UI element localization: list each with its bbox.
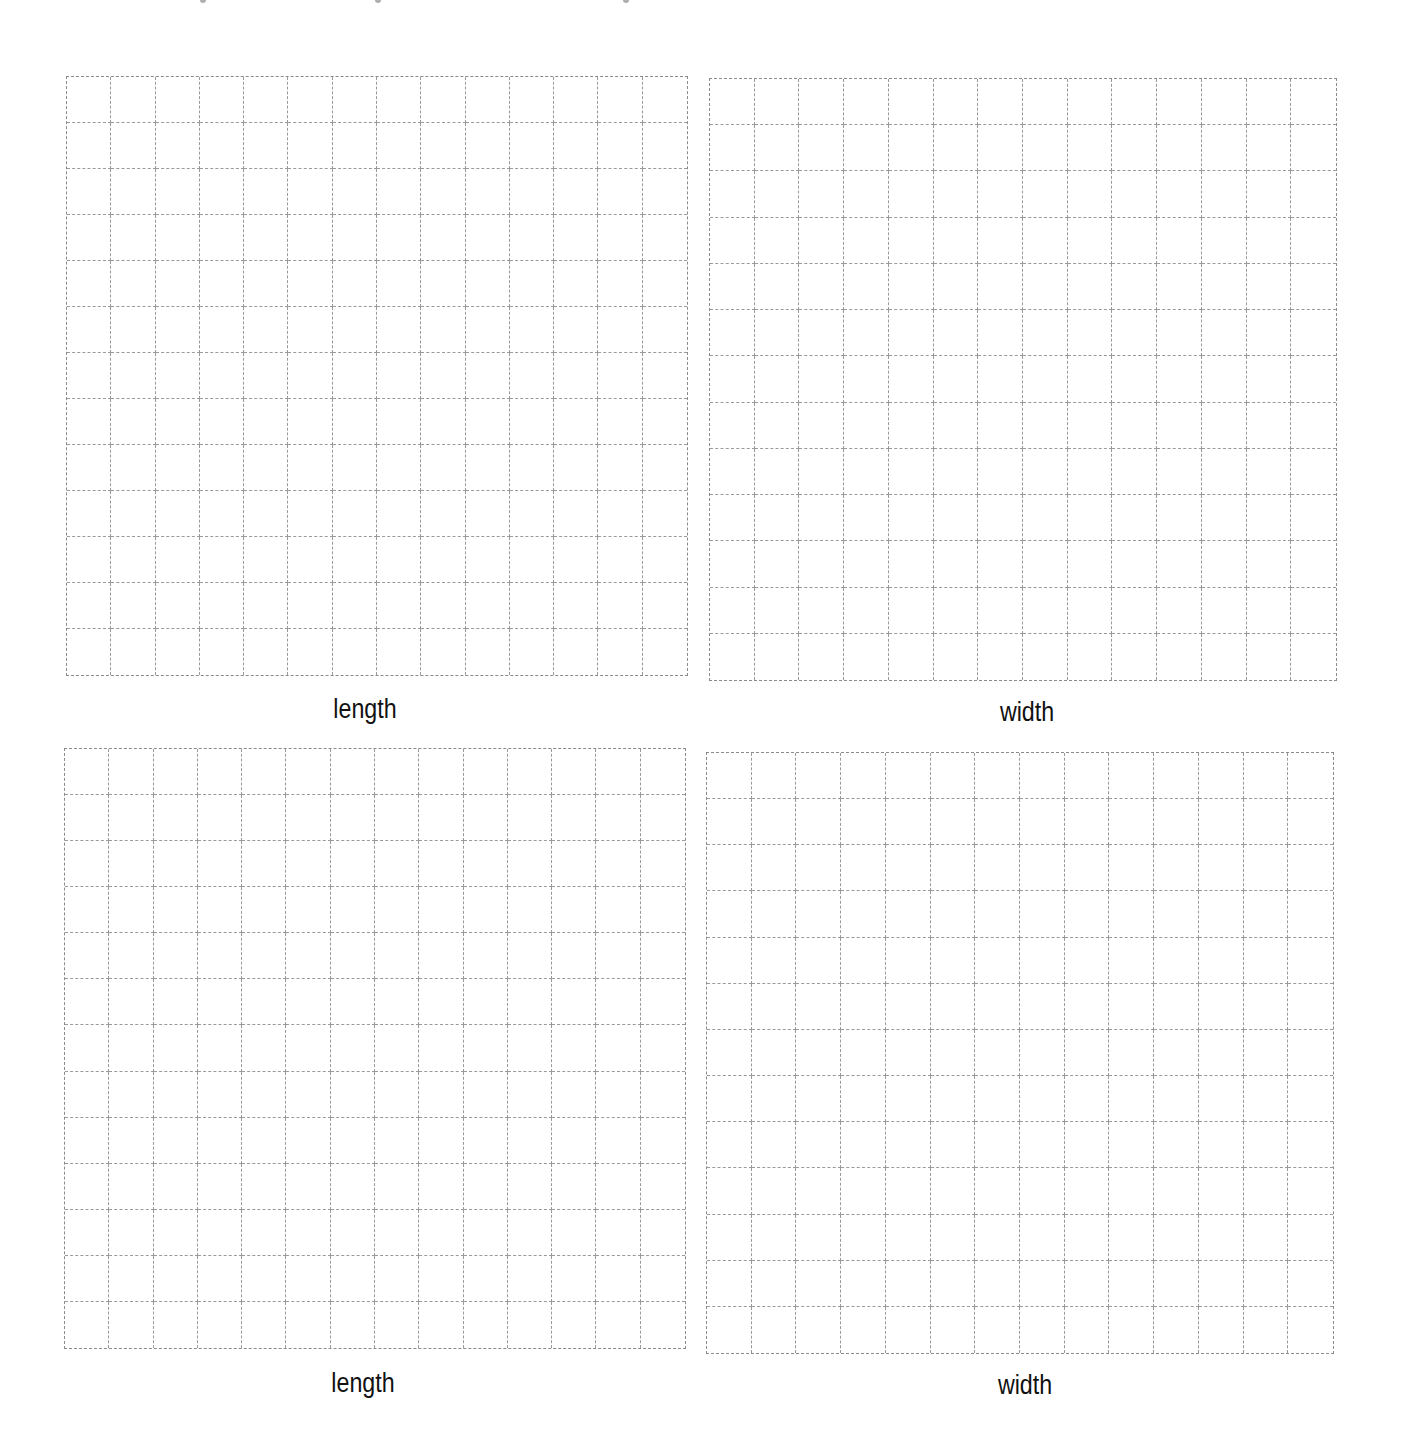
grid-cell: [1020, 1168, 1065, 1214]
grid-cell: [1288, 753, 1333, 799]
grid-cell: [109, 841, 153, 887]
grid-cell: [109, 1210, 153, 1256]
grid-cell: [707, 753, 752, 799]
grid-cell: [975, 938, 1020, 984]
grid-cell: [242, 1256, 286, 1302]
grid-cell: [331, 841, 375, 887]
grid-cell: [200, 261, 244, 307]
grid-cell: [242, 1210, 286, 1256]
grid-cell: [288, 77, 332, 123]
grid-cell: [286, 933, 330, 979]
grid-cell: [111, 399, 155, 445]
grid-cell: [1157, 218, 1202, 264]
grid-cell: [1244, 799, 1289, 845]
grid-cell: [1020, 1307, 1065, 1353]
grid-cell: [931, 1076, 976, 1122]
grid-cell: [244, 399, 288, 445]
grid-cell: [1202, 634, 1247, 680]
grid-paper-bottom-right: [706, 752, 1334, 1354]
grid-cell: [156, 169, 200, 215]
grid-cell: [65, 749, 109, 795]
grid-cell: [67, 445, 111, 491]
grid-cell: [200, 583, 244, 629]
grid-cell: [552, 1256, 596, 1302]
grid-cell: [466, 77, 510, 123]
grid-cell: [111, 215, 155, 261]
grid-cell: [1291, 634, 1336, 680]
grid-cell: [641, 1210, 685, 1256]
grid-cell: [333, 583, 377, 629]
grid-cell: [596, 749, 640, 795]
grid-cell: [1068, 634, 1113, 680]
grid-cell: [707, 984, 752, 1030]
grid-cell: [288, 399, 332, 445]
grid-cell: [464, 749, 508, 795]
grid-cell: [596, 1210, 640, 1256]
grid-cell: [288, 123, 332, 169]
grid-cell: [419, 1164, 463, 1210]
grid-cell: [464, 795, 508, 841]
grid-cell: [286, 795, 330, 841]
grid-cell: [156, 491, 200, 537]
grid-cell: [934, 449, 979, 495]
grid-cell: [67, 583, 111, 629]
grid-cell: [1065, 891, 1110, 937]
grid-cell: [931, 799, 976, 845]
grid-cell: [1023, 356, 1068, 402]
grid-cell: [643, 261, 687, 307]
grid-cell: [419, 795, 463, 841]
grid-cell: [643, 583, 687, 629]
grid-cell: [796, 891, 841, 937]
grid-cell: [755, 588, 800, 634]
grid-cell: [1154, 1215, 1199, 1261]
grid-cell: [198, 1302, 242, 1348]
grid-cell: [1154, 753, 1199, 799]
grid-cell: [1199, 1261, 1244, 1307]
grid-cell: [975, 1215, 1020, 1261]
grid-cell: [707, 1307, 752, 1353]
grid-cell: [156, 261, 200, 307]
grid-cell: [466, 399, 510, 445]
grid-cell: [154, 1302, 198, 1348]
grid-cell: [1023, 171, 1068, 217]
grid-cell: [331, 933, 375, 979]
grid-cell: [1199, 891, 1244, 937]
grid-cell: [244, 261, 288, 307]
grid-cell: [641, 1118, 685, 1164]
grid-cell: [707, 938, 752, 984]
grid-cell: [510, 353, 554, 399]
grid-cell: [244, 215, 288, 261]
grid-cell: [931, 845, 976, 891]
grid-cell: [375, 979, 419, 1025]
grid-cell: [799, 541, 844, 587]
grid-cell: [707, 1261, 752, 1307]
grid-cell: [752, 891, 797, 937]
grid-cell: [796, 1215, 841, 1261]
grid-cell: [1065, 1168, 1110, 1214]
grid-cell: [752, 1261, 797, 1307]
grid-cell: [841, 984, 886, 1030]
grid-cell: [752, 1076, 797, 1122]
grid-cell: [464, 1302, 508, 1348]
grid-cell: [596, 1118, 640, 1164]
grid-cell: [1291, 79, 1336, 125]
grid-cell: [375, 749, 419, 795]
grid-cell: [796, 1307, 841, 1353]
grid-cell: [1157, 495, 1202, 541]
grid-cell: [377, 399, 421, 445]
grid-cell: [1202, 449, 1247, 495]
grid-cell: [1109, 1168, 1154, 1214]
grid-cell: [154, 1118, 198, 1164]
grid-cell: [1065, 938, 1110, 984]
grid-cell: [1288, 1076, 1333, 1122]
grid-cell: [419, 979, 463, 1025]
grid-cell: [421, 169, 465, 215]
grid-cell: [109, 979, 153, 1025]
grid-cell: [65, 1072, 109, 1118]
grid-cell: [934, 171, 979, 217]
grid-cell: [288, 537, 332, 583]
grid-cell: [796, 799, 841, 845]
clipped-glyph-mark: [375, 0, 381, 3]
grid-cell: [598, 537, 642, 583]
grid-cell: [156, 123, 200, 169]
